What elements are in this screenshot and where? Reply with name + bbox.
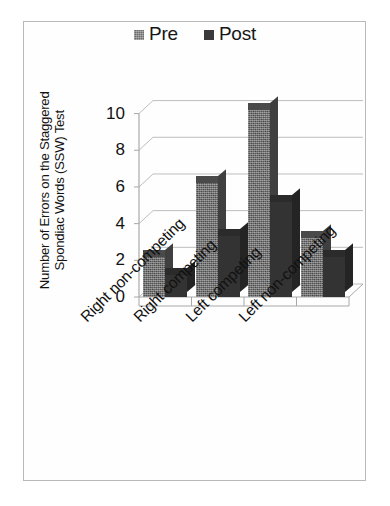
bar-front-face	[248, 110, 270, 297]
legend-label-post: Post	[219, 24, 256, 43]
bar-top-face	[248, 103, 270, 110]
y-axis-tick-label: 8	[93, 141, 125, 158]
legend-entry-post[interactable]: Post	[204, 24, 256, 43]
y-axis-title-line-2: Spondiac Words (SSW) Test	[52, 61, 67, 319]
legend-entry-pre[interactable]: Pre	[134, 24, 178, 43]
pre-legend-swatch-icon	[134, 30, 144, 40]
y-axis-title-line-1: Number of Errors on the Staggered	[37, 61, 52, 319]
bar-top-face	[270, 195, 292, 202]
bar-top-face	[323, 250, 345, 257]
bar-top-face	[196, 176, 218, 183]
y-axis-tick-label: 6	[93, 178, 125, 195]
chart-legend: Pre Post	[0, 24, 390, 43]
y-axis-tick-label: 2	[93, 251, 125, 268]
post-legend-swatch-icon	[204, 30, 214, 40]
y-axis-title: Number of Errors on the Staggered Spondi…	[37, 61, 68, 319]
bar-front-face	[323, 257, 345, 297]
y-axis-tick-label: 4	[93, 215, 125, 232]
bar-post-3[interactable]	[323, 250, 345, 297]
bar-depth-side	[345, 243, 353, 292]
bar-top-face	[218, 229, 240, 236]
y-axis-tick-label: 10	[93, 105, 125, 122]
legend-label-pre: Pre	[149, 24, 178, 43]
